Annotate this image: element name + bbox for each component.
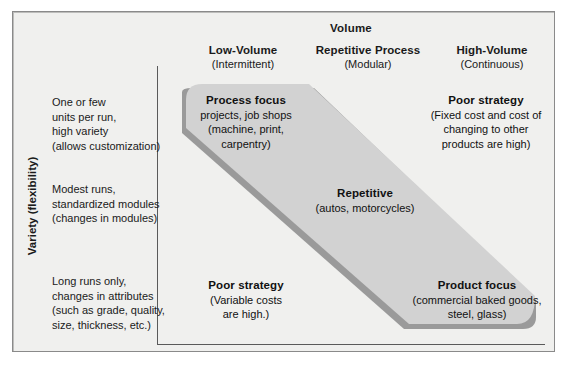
y-axis-title: Variety (flexibility) [26,111,38,301]
cell-repetitive-line-1: (autos, motorcycles) [290,201,440,216]
row-descriptor-long-runs-line-4: size, thickness, etc.) [52,318,160,333]
cell-process-focus-heading: Process focus [180,93,312,108]
row-descriptor-modest-runs-line-3: (changes in modules) [52,211,160,226]
cell-poor-strategy-high-volume-heading: Poor strategy [412,93,560,108]
cell-poor-strategy-high-volume: Poor strategy (Fixed cost and cost of ch… [412,93,560,151]
cell-product-focus-line-2: steel, glass) [396,307,558,322]
cell-poor-strategy-low-volume: Poor strategy (Variable costs are high.) [178,278,314,322]
row-descriptor-high-variety-line-4: (allows customization) [52,139,160,154]
cell-poor-strategy-low-volume-line-1: (Variable costs [178,293,314,308]
cell-repetitive: Repetitive (autos, motorcycles) [290,186,440,215]
column-header-high-volume-title: High-Volume [424,44,560,58]
y-axis-title-regular: (flexibility) [26,157,38,218]
column-header-low-volume-subtitle: (Intermittent) [175,58,311,72]
row-descriptor-modest-runs-line-2: standardized modules [52,197,160,212]
column-header-high-volume-subtitle: (Continuous) [424,58,560,72]
row-descriptor-modest-runs: Modest runs, standardized modules (chang… [52,182,160,226]
column-header-repetitive-process-subtitle: (Modular) [300,58,436,72]
column-header-repetitive-process-title: Repetitive Process [300,44,436,58]
row-descriptor-long-runs-line-1: Long runs only, [52,274,160,289]
cell-process-focus-line-2: (machine, print, [180,122,312,137]
cell-process-focus-line-3: carpentry) [180,137,312,152]
cell-product-focus-heading: Product focus [396,278,558,293]
x-axis-line [157,344,545,345]
cell-process-focus-line-1: projects, job shops [180,108,312,123]
cell-poor-strategy-low-volume-heading: Poor strategy [178,278,314,293]
row-descriptor-high-variety: One or few units per run, high variety (… [52,95,160,153]
column-header-high-volume: High-Volume (Continuous) [424,44,560,71]
diagram-root: Volume Low-Volume (Intermittent) Repetit… [0,0,568,369]
row-descriptor-long-runs: Long runs only, changes in attributes (s… [52,274,160,332]
cell-poor-strategy-low-volume-line-2: are high.) [178,307,314,322]
row-descriptor-long-runs-line-3: (such as grade, quality, [52,303,160,318]
row-descriptor-high-variety-line-3: high variety [52,124,160,139]
cell-process-focus: Process focus projects, job shops (machi… [180,93,312,151]
row-descriptor-high-variety-line-2: units per run, [52,110,160,125]
cell-poor-strategy-high-volume-line-2: changing to other [412,122,560,137]
row-descriptor-long-runs-line-2: changes in attributes [52,289,160,304]
cell-repetitive-heading: Repetitive [290,186,440,201]
cell-product-focus: Product focus (commercial baked goods, s… [396,278,558,322]
cell-poor-strategy-high-volume-line-3: products are high) [412,137,560,152]
y-axis-title-bold: Variety [26,217,38,255]
row-descriptor-high-variety-line-1: One or few [52,95,160,110]
x-axis-title: Volume [157,22,545,34]
column-header-repetitive-process: Repetitive Process (Modular) [300,44,436,71]
column-header-low-volume: Low-Volume (Intermittent) [175,44,311,71]
cell-poor-strategy-high-volume-line-1: (Fixed cost and cost of [412,108,560,123]
cell-product-focus-line-1: (commercial baked goods, [396,293,558,308]
column-header-low-volume-title: Low-Volume [175,44,311,58]
row-descriptor-modest-runs-line-1: Modest runs, [52,182,160,197]
